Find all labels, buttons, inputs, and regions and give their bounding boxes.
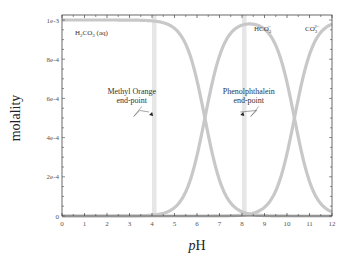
- species-curve-0: [62, 20, 332, 216]
- x-tick-label: 5: [173, 220, 177, 228]
- x-tick-label: 4: [150, 220, 154, 228]
- annotation-text: end-point: [116, 96, 147, 105]
- species-label-hco3: HCO3−: [254, 24, 272, 34]
- y-tick-label: 6e-4: [47, 95, 60, 103]
- species-curve-1: [62, 24, 332, 216]
- x-tick-label: 0: [60, 220, 64, 228]
- x-tick-label: 2: [105, 220, 109, 228]
- annotation-text: Methyl Orange: [107, 87, 156, 96]
- y-tick-label: 4e-4: [47, 134, 60, 142]
- speciation-chart: 0123456789101112 02e-44e-46e-48e-41e-3 M…: [0, 0, 350, 265]
- x-tick-label: 8: [240, 220, 244, 228]
- species-curve-2: [62, 24, 332, 216]
- endpoint-bands: [152, 15, 247, 216]
- annotations: Methyl Orangeend-pointPhenolphthaleinend…: [107, 87, 274, 116]
- x-tick-label: 7: [218, 220, 222, 228]
- plot-frame: [62, 15, 332, 216]
- x-tick-label: 9: [263, 220, 267, 228]
- species-curves: [62, 20, 332, 216]
- y-tick-label: 2e-4: [47, 173, 60, 181]
- annotation-squiggle: [134, 106, 149, 116]
- x-axis-title: pH: [187, 238, 205, 253]
- x-tick-label: 10: [284, 220, 292, 228]
- x-tick-label: 6: [195, 220, 199, 228]
- x-tick-label: 11: [306, 220, 313, 228]
- y-tick-label: 8e-4: [47, 56, 60, 64]
- y-tick-label: 1e-3: [47, 17, 60, 25]
- species-label-h2co3: H2CO3 (aq): [75, 29, 108, 38]
- annotation-text: end-point: [233, 96, 264, 105]
- x-tick-label: 3: [128, 220, 132, 228]
- x-tick-label: 12: [329, 220, 337, 228]
- y-tick-label: 0: [56, 213, 60, 221]
- species-label-co3: CO32−: [305, 24, 320, 34]
- y-axis: 02e-44e-46e-48e-41e-3: [47, 17, 332, 221]
- y-axis-title: molality: [8, 95, 23, 142]
- annotation-text: Phenolphthalein: [223, 87, 275, 96]
- species-labels: H2CO3 (aq)HCO3−CO32−: [75, 24, 320, 38]
- x-tick-label: 1: [83, 220, 87, 228]
